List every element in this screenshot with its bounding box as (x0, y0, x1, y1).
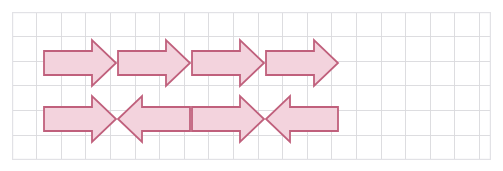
left-arrow (266, 96, 338, 142)
left-arrow (118, 96, 190, 142)
arrow-shapes-layer (12, 12, 491, 160)
right-arrow (44, 96, 116, 142)
right-arrow (118, 40, 190, 86)
screenshot-canvas (0, 0, 503, 171)
right-arrow (44, 40, 116, 86)
grid-panel (12, 12, 491, 160)
right-arrow (266, 40, 338, 86)
right-arrow (192, 40, 264, 86)
right-arrow (192, 96, 264, 142)
